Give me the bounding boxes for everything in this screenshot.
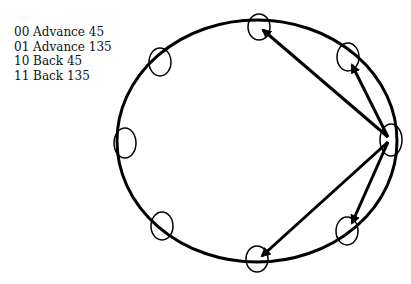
state-circle-diagram xyxy=(0,0,411,284)
node-lower-left xyxy=(151,212,173,240)
arrows xyxy=(262,30,388,256)
arrow-back-135 xyxy=(262,142,388,256)
node-top xyxy=(248,14,270,40)
node-lower-right xyxy=(336,217,358,245)
arrow-advance-45 xyxy=(352,65,388,137)
node-bottom xyxy=(246,246,268,272)
nodes xyxy=(114,14,402,272)
main-circle xyxy=(117,20,397,262)
arrow-advance-135 xyxy=(263,30,388,137)
